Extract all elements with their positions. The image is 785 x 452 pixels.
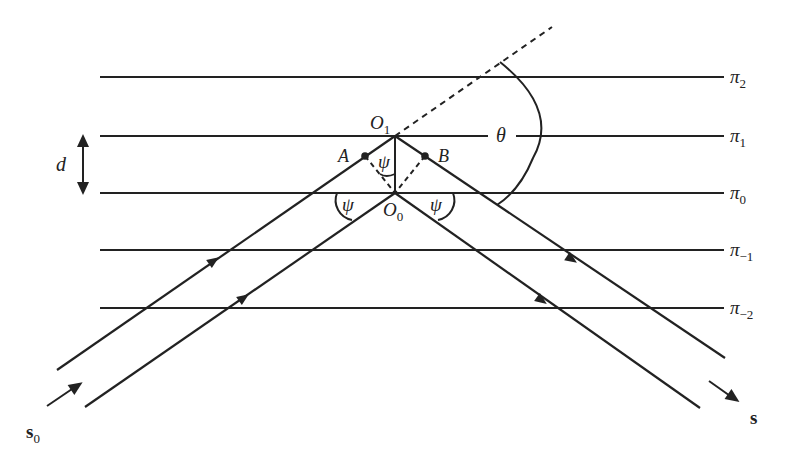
angle-arc-psi-inner xyxy=(380,174,395,176)
reflected-rays xyxy=(395,136,725,408)
arrow-icon xyxy=(68,377,86,395)
plane-label-pi-minus-2: π xyxy=(730,297,740,318)
spacing-d-indicator: d xyxy=(56,134,89,195)
point-b-label: B xyxy=(438,146,449,166)
svg-text:O1: O1 xyxy=(370,112,390,137)
reflected-ray-1 xyxy=(395,136,725,358)
point-a-marker xyxy=(361,152,369,160)
path-difference-b xyxy=(395,156,425,193)
svg-text:π1: π1 xyxy=(730,125,746,150)
incident-ray-1 xyxy=(57,136,395,370)
incident-vector-label: s xyxy=(26,421,33,442)
bragg-diagram: π2 π1 π0 π−1 π−2 d A B O1 O0 ψ xyxy=(0,0,785,452)
angle-psi-left-label: ψ xyxy=(342,194,355,215)
plane-label-pi-0: π xyxy=(730,182,740,203)
svg-text:O0: O0 xyxy=(383,199,403,224)
plane-label-pi-1: π xyxy=(730,125,740,146)
plane-labels: π2 π1 π0 π−1 π−2 xyxy=(730,66,753,322)
spacing-label: d xyxy=(56,153,67,175)
svg-text:π0: π0 xyxy=(730,182,746,207)
point-b-marker xyxy=(421,152,429,160)
svg-text:s0: s0 xyxy=(26,421,40,446)
angle-psi-right-label: ψ xyxy=(430,194,443,215)
angle-psi-inner-label: ψ xyxy=(378,151,391,172)
reflected-ray-2 xyxy=(395,193,700,408)
lattice-planes xyxy=(100,77,724,308)
plane-label-pi-2: π xyxy=(730,66,740,87)
arrow-icon xyxy=(725,389,743,407)
plane-label-pi-minus-1: π xyxy=(730,239,740,260)
svg-text:π−2: π−2 xyxy=(730,297,753,322)
point-o1-label: O xyxy=(370,112,384,133)
incident-direction-vector xyxy=(47,387,75,406)
incident-extension-dashed xyxy=(395,27,552,136)
point-o0-label: O xyxy=(383,199,397,220)
incident-rays xyxy=(57,136,395,407)
point-a-label: A xyxy=(337,146,350,166)
svg-text:π2: π2 xyxy=(730,66,746,91)
angle-theta-label: θ xyxy=(496,124,506,146)
scattered-vector-label: s xyxy=(750,407,757,428)
svg-text:π−1: π−1 xyxy=(730,239,753,264)
